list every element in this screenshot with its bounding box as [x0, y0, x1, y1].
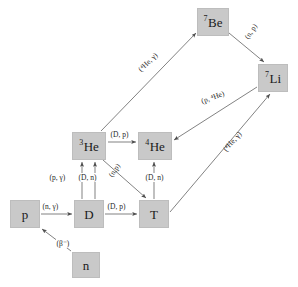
reaction-label-D-to-He3-deuteron-neutron: (D, n) [78, 173, 97, 182]
reaction-label-n-to-p: (β⁻) [56, 239, 70, 248]
nuclide-box-helium-3[interactable]: 3 He [72, 132, 106, 160]
nuclide-box-beryllium-7[interactable]: 7 Be [197, 8, 229, 36]
nuclide-superscript-helium-3: 3 [79, 139, 83, 147]
nuclide-label-helium-3: He [84, 140, 99, 153]
nuclide-superscript-helium-4: 4 [145, 139, 149, 147]
nuclide-box-lithium-7[interactable]: 7 Li [258, 64, 288, 92]
nuclide-superscript-lithium-7: 7 [265, 71, 269, 79]
nuclide-label-tritium: T [150, 208, 158, 221]
arrow-T-to-Li7 [170, 94, 270, 212]
nuclide-label-helium-4: He [150, 140, 165, 153]
reaction-label-He3-to-He4: (D, p) [110, 130, 129, 139]
reaction-label-T-to-He4: (D, n) [145, 173, 164, 182]
reaction-label-D-to-He3-proton-gamma: (p, γ) [49, 173, 66, 182]
nuclide-box-tritium[interactable]: T [139, 200, 169, 228]
nuclide-label-beryllium-7: Be [208, 16, 222, 29]
nuclide-label-lithium-7: Li [269, 72, 281, 85]
nuclide-superscript-beryllium-7: 7 [204, 15, 208, 23]
nuclide-label-n: n [83, 259, 90, 272]
nuclide-box-n[interactable]: n [72, 252, 100, 278]
nuclide-box-p[interactable]: p [10, 200, 40, 228]
nuclide-box-helium-4[interactable]: 4 He [138, 132, 172, 160]
reaction-label-D-to-T: (D, p) [107, 202, 126, 211]
arrow-He3-to-T [103, 160, 146, 198]
nuclide-label-p: p [22, 208, 29, 221]
nuclide-box-deuterium[interactable]: D [74, 200, 104, 228]
arrow-He3-to-Be7 [101, 33, 196, 131]
nuclide-label-deuterium: D [84, 208, 93, 221]
reaction-label-p-to-D: (n, γ) [42, 202, 59, 211]
nucleosynthesis-network-diagram: n p D T 3 He 4 He 7 Be 7 Li (β⁻) (n, γ) … [0, 0, 298, 287]
